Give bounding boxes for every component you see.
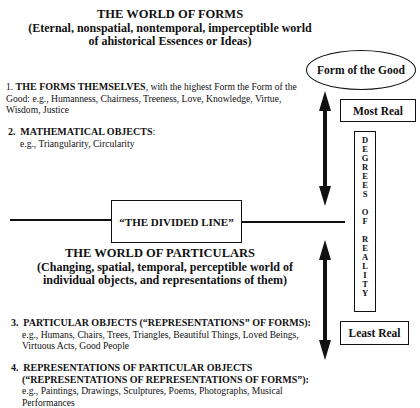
divided-line-box: “THE DIVIDED LINE” (111, 200, 242, 243)
world-of-forms-subtitle-2: of ahistorical Essences or Ideas) (20, 35, 320, 48)
degrees-of-reality-label: D E G R E E S O F R E A L I T Y (362, 136, 369, 298)
item-text: Performances (11, 397, 321, 408)
item-heading: PARTICULAR OBJECTS (“REPRESENTATIONS” OF… (23, 317, 307, 328)
divided-line-right (241, 221, 345, 223)
item-text: e.g., Paintings, Drawings, Sculptures, P… (11, 385, 321, 397)
item-number: 4. (11, 362, 19, 373)
most-real-label: Most Real (353, 105, 403, 117)
degrees-of-reality-box: D E G R E E S O F R E A L I T Y (354, 131, 376, 312)
item-heading: REPRESENTATIONS OF PARTICULAR OBJECTS (23, 362, 252, 373)
item-text: e.g., Triangularity, Circularity (8, 138, 298, 150)
item-text: Virtuous Acts, Good People (11, 340, 321, 352)
item-number: 2. (8, 126, 16, 137)
form-of-the-good-label: Form of the Good (317, 64, 405, 76)
item-heading: MATHEMATICAL OBJECTS (20, 126, 152, 137)
item-text: , with the highest Form the Form of the (146, 81, 297, 92)
most-real-box: Most Real (340, 99, 416, 122)
item-number: 3. (11, 317, 19, 328)
item-heading-2: (“REPRESENTATIONS OF REPRESENTATIONS OF … (22, 374, 309, 385)
world-of-forms-title: THE WORLD OF FORMS (20, 8, 320, 21)
item-text: : (308, 317, 311, 328)
divided-line-label: “THE DIVIDED LINE” (119, 216, 233, 228)
item-number: 1. (6, 81, 13, 92)
world-of-particulars-subtitle-2: individual objects, and representations … (0, 274, 330, 287)
form-of-the-good-ellipse: Form of the Good (306, 50, 416, 90)
item-text: Wisdom, Justice (6, 104, 306, 116)
item-mathematical-objects: 2. MATHEMATICAL OBJECTS: e.g., Triangula… (8, 126, 298, 149)
upper-double-arrow-icon (318, 91, 332, 206)
world-of-particulars-title: THE WORLD OF PARTICULARS (10, 247, 310, 260)
item-heading: THE FORMS THEMSELVES (16, 81, 146, 92)
item-text: Good: e.g., Humanness, Chairness, Treene… (6, 93, 306, 105)
item-forms-themselves: 1. THE FORMS THEMSELVES, with the highes… (6, 81, 306, 116)
item-particular-objects: 3. PARTICULAR OBJECTS (“REPRESENTATIONS”… (11, 317, 321, 352)
least-real-label: Least Real (348, 327, 400, 339)
item-representations: 4. REPRESENTATIONS OF PARTICULAR OBJECTS… (11, 362, 321, 408)
least-real-box: Least Real (340, 321, 409, 345)
item-text: : (152, 126, 155, 137)
item-text: e.g., Humans, Chairs, Trees, Triangles, … (11, 329, 321, 341)
divided-line-left (10, 219, 112, 221)
